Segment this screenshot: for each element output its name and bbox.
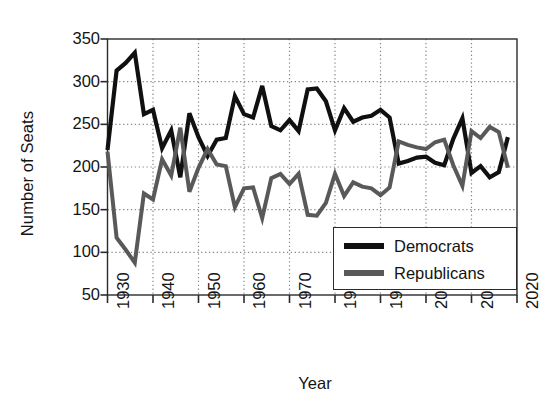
legend-swatch-democrats [344, 243, 384, 249]
y-tick-350: 350 [48, 30, 100, 47]
y-tick-100: 100 [48, 243, 100, 260]
x-tick-2020: 2020 [524, 272, 541, 309]
legend-label-republicans: Republicans [394, 265, 485, 282]
y-tick-300: 300 [48, 73, 100, 90]
y-tick-50: 50 [48, 286, 100, 303]
chart-figure: Number of Seats Year 3503002502001501005… [0, 0, 550, 412]
y-tick-250: 250 [48, 115, 100, 132]
y-tick-150: 150 [48, 201, 100, 218]
legend-swatch-republicans [344, 270, 384, 276]
chart-legend: Democrats Republicans [333, 227, 517, 290]
x-tick-1960: 1960 [251, 272, 268, 309]
x-tick-1970: 1970 [297, 272, 314, 309]
x-axis-title: Year [255, 374, 375, 393]
legend-item-democrats: Democrats [344, 233, 474, 259]
x-tick-1940: 1940 [160, 272, 177, 309]
x-tick-1950: 1950 [206, 272, 223, 309]
legend-label-democrats: Democrats [394, 238, 474, 255]
legend-item-republicans: Republicans [344, 260, 485, 286]
x-tick-1930: 1930 [115, 272, 132, 309]
y-tick-200: 200 [48, 158, 100, 175]
y-axis-tick-labels: 35030025020015010050 [42, 0, 100, 412]
y-axis-title: Number of Seats [18, 94, 37, 254]
